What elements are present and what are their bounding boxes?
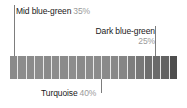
color-proportion-figure: Mid blue-green35% Dark blue-green 25% Tu… (0, 0, 187, 108)
swatch-segment (18, 56, 26, 79)
swatch-segment (10, 56, 18, 79)
swatch-segment (153, 56, 161, 79)
swatch-segment (119, 56, 127, 79)
swatch-segment (69, 56, 77, 79)
swatch-segment (94, 56, 102, 79)
callout-mid-blue-green: Mid blue-green35% (16, 6, 90, 16)
callout-turquoise-percent: 40% (80, 88, 97, 98)
callout-dark-blue-green-label: Dark blue-green (96, 26, 155, 36)
callout-turquoise-label: Turquoise (41, 88, 78, 98)
swatch-segment (44, 56, 52, 79)
leader-line-mid-blue-green (14, 5, 15, 61)
callout-mid-blue-green-label: Mid blue-green (16, 6, 71, 16)
swatch-segment (86, 56, 94, 79)
swatch-segment (77, 56, 85, 79)
swatch-segment (102, 56, 110, 79)
swatch-segment (145, 56, 153, 79)
swatch-segment (111, 56, 119, 79)
swatch-segment (27, 56, 35, 79)
callout-turquoise: Turquoise40% (41, 88, 96, 98)
swatch-segment (161, 56, 169, 79)
swatch-segment (136, 56, 144, 79)
swatch-segment (52, 56, 60, 79)
callout-mid-blue-green-percent: 35% (73, 6, 90, 16)
swatch-segment (128, 56, 136, 79)
callout-dark-blue-green: Dark blue-green 25% (83, 26, 155, 46)
swatch-segment (35, 56, 43, 79)
swatch-segment (170, 56, 177, 79)
callout-dark-blue-green-percent: 25% (85, 36, 155, 46)
swatch-segment (60, 56, 68, 79)
color-swatch-strip (10, 56, 177, 79)
